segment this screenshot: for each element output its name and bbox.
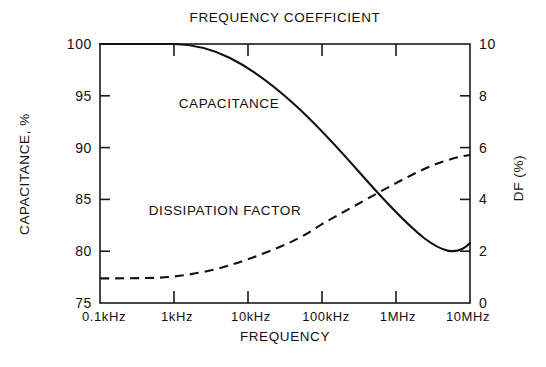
x-tick-label-1mhz: 1MHz bbox=[380, 309, 416, 324]
frequency-coefficient-chart: FREQUENCY COEFFICIENT 100 95 90 85 80 75… bbox=[0, 0, 546, 367]
y2-tick-label-6: 6 bbox=[479, 140, 487, 156]
x-axis-label: FREQUENCY bbox=[240, 329, 330, 344]
annotation-dissipation-factor: DISSIPATION FACTOR bbox=[149, 203, 302, 218]
y-tick-label-85: 85 bbox=[75, 191, 92, 207]
chart-page: FREQUENCY COEFFICIENT 100 95 90 85 80 75… bbox=[0, 0, 546, 367]
x-tick-label-10mhz: 10MHz bbox=[446, 309, 490, 324]
x-axis-ticks-bottom bbox=[174, 291, 396, 303]
y-tick-label-90: 90 bbox=[75, 140, 92, 156]
y-tick-label-80: 80 bbox=[75, 243, 92, 259]
x-tick-label-0-1khz: 0.1kHz bbox=[82, 309, 126, 324]
annotation-capacitance: CAPACITANCE bbox=[179, 96, 280, 111]
y-axis-label-right: DF (%) bbox=[511, 155, 526, 201]
y-tick-label-100: 100 bbox=[67, 36, 92, 52]
x-tick-label-100khz: 100kHz bbox=[302, 309, 350, 324]
y2-tick-label-8: 8 bbox=[479, 88, 487, 104]
y-axis-ticks-left bbox=[100, 96, 110, 251]
series-capacitance bbox=[100, 44, 470, 251]
y-axis-label-left: CAPACITANCE, % bbox=[17, 113, 32, 235]
y2-tick-label-4: 4 bbox=[479, 191, 487, 207]
y2-tick-label-10: 10 bbox=[479, 36, 496, 52]
y-tick-label-95: 95 bbox=[75, 88, 92, 104]
chart-title: FREQUENCY COEFFICIENT bbox=[190, 10, 381, 25]
x-tick-label-10khz: 10kHz bbox=[231, 309, 271, 324]
y-axis-ticks-right bbox=[460, 96, 470, 251]
x-tick-label-1khz: 1kHz bbox=[161, 309, 193, 324]
y2-tick-label-2: 2 bbox=[479, 243, 487, 259]
